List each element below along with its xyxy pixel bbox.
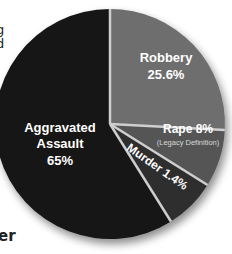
robbery-value: 25.6% [148,67,185,82]
robbery-label: Robbery [140,50,194,65]
rape-label: Rape 8% [163,122,213,136]
assault-label-line2: Assault [37,136,85,151]
assault-label-line1: Aggravated [24,120,96,135]
assault-value: 65% [47,153,73,168]
rape-sublabel: (Legacy Definition) [157,138,220,147]
pie-chart: Robbery 25.6% Rape 8% (Legacy Definition… [0,0,232,254]
